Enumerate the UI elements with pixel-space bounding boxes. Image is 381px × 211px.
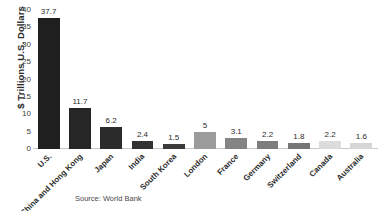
- bar-slot[interactable]: 1.5: [163, 10, 185, 149]
- x-tick-label: Germany: [241, 152, 272, 183]
- bar-slot[interactable]: 3.1: [225, 10, 247, 149]
- y-tick-label: 30: [5, 41, 31, 49]
- bar[interactable]: [194, 132, 216, 149]
- bar-value-label: 2.2: [262, 130, 273, 139]
- bar-value-label: 5: [203, 121, 207, 130]
- bar[interactable]: [288, 143, 310, 149]
- bar[interactable]: [319, 141, 341, 149]
- y-tick-label: 35: [5, 23, 31, 31]
- bar-value-label: 2.4: [137, 130, 148, 139]
- y-tick-label: 0: [5, 145, 31, 153]
- bar-slot[interactable]: 6.2: [100, 10, 122, 149]
- bar-value-label: 2.2: [325, 130, 336, 139]
- bar-chart: $ Trillions U.S. Dollars 403530252015105…: [0, 0, 381, 211]
- bar-slot[interactable]: 2.2: [319, 10, 341, 149]
- bar-slot[interactable]: 5: [194, 10, 216, 149]
- x-tick-label: Australia: [335, 152, 366, 183]
- bar-slot[interactable]: 2.2: [257, 10, 279, 149]
- bar[interactable]: [38, 18, 60, 149]
- plot-area: 37.711.76.22.41.553.12.21.82.21.6: [33, 10, 377, 149]
- x-tick-label: London: [182, 152, 209, 179]
- x-tick-label: Canada: [308, 152, 335, 179]
- bar[interactable]: [69, 108, 91, 149]
- bar-slot[interactable]: 1.8: [288, 10, 310, 149]
- x-tick-label: India: [127, 152, 147, 172]
- x-tick-label: France: [216, 152, 241, 177]
- bar[interactable]: [257, 141, 279, 149]
- bar[interactable]: [132, 141, 154, 149]
- bar[interactable]: [100, 127, 122, 149]
- y-tick-label: 20: [5, 76, 31, 84]
- bar-slot[interactable]: 1.6: [350, 10, 372, 149]
- y-tick-label: 5: [5, 128, 31, 136]
- y-tick-label: 25: [5, 58, 31, 66]
- bar-value-label: 11.7: [72, 97, 87, 106]
- bar-value-label: 1.8: [293, 132, 304, 141]
- bar[interactable]: [225, 138, 247, 149]
- bar-value-label: 6.2: [106, 116, 117, 125]
- bar-value-label: 37.7: [41, 7, 57, 16]
- y-axis-tick-labels: 4035302520151050: [0, 0, 31, 159]
- bar[interactable]: [350, 143, 372, 149]
- bar-value-label: 3.1: [231, 127, 242, 136]
- x-tick-label: U.S.: [36, 152, 53, 169]
- y-tick-label: 15: [5, 93, 31, 101]
- bar-value-label: 1.5: [168, 133, 179, 142]
- bar[interactable]: [163, 144, 185, 149]
- y-tick-label: 10: [5, 110, 31, 118]
- bar-value-label: 1.6: [356, 132, 367, 141]
- source-note: Source: World Bank: [75, 194, 142, 203]
- bar-slot[interactable]: 2.4: [132, 10, 154, 149]
- x-tick-label: Japan: [93, 152, 116, 175]
- bar-slot[interactable]: 11.7: [69, 10, 91, 149]
- y-tick-label: 40: [5, 6, 31, 14]
- bar-slot[interactable]: 37.7: [38, 10, 60, 149]
